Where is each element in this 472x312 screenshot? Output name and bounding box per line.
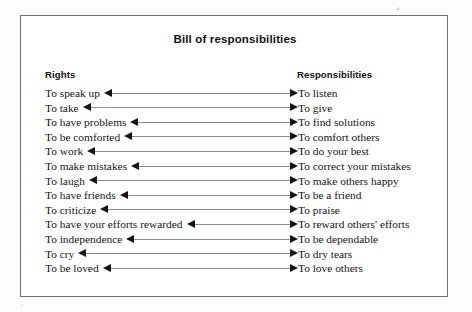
rights-responsibilities-list: To speak upTo listenTo takeTo giveTo hav…	[21, 86, 449, 276]
figure-title: Bill of responsibilities	[21, 33, 449, 45]
arrow-head-left-icon	[83, 103, 91, 111]
arrow-head-right-icon	[290, 162, 298, 170]
responsibility-item-label: To do your best	[298, 144, 369, 159]
connector-line	[128, 195, 290, 196]
responsibility-item-label: To reward others' efforts	[298, 217, 409, 232]
responsibility-item-label: To dry tears	[298, 247, 352, 262]
connector-line	[139, 166, 290, 167]
right-item-label: To be loved	[45, 261, 99, 276]
responsibility-item-label: To correct your mistakes	[298, 159, 411, 174]
arrow-head-right-icon	[290, 220, 298, 228]
responsibility-item-label: To be dependable	[298, 232, 378, 247]
arrow-head-right-icon	[290, 118, 298, 126]
arrow-head-right-icon	[290, 235, 298, 243]
responsibility-item-label: To comfort others	[298, 130, 379, 145]
arrow-head-right-icon	[290, 132, 298, 140]
connector-line	[97, 180, 290, 181]
arrow-head-right-icon	[290, 103, 298, 111]
table-row: To criticizeTo praise	[21, 203, 449, 218]
arrow-head-left-icon	[103, 264, 111, 272]
figure-root: Bill of responsibilities Rights Responsi…	[0, 0, 472, 312]
arrow-head-right-icon	[290, 205, 298, 213]
connector-line	[134, 239, 290, 240]
table-row: To have problemsTo find solutions	[21, 115, 449, 130]
connector-line	[108, 209, 290, 210]
table-row: To independenceTo be dependable	[21, 232, 449, 247]
table-row: To workTo do your best	[21, 144, 449, 159]
arrow-head-left-icon	[187, 220, 195, 228]
column-header-rights: Rights	[45, 69, 75, 80]
connector-line	[132, 136, 290, 137]
responsibility-item-label: To make others happy	[298, 174, 399, 189]
arrow-head-left-icon	[124, 132, 132, 140]
arrow-head-left-icon	[131, 162, 139, 170]
table-row: To cryTo dry tears	[21, 247, 449, 262]
arrow-head-right-icon	[290, 89, 298, 97]
table-row: To have friendsTo be a friend	[21, 188, 449, 203]
right-item-label: To laugh	[45, 174, 85, 189]
arrow-head-left-icon	[100, 205, 108, 213]
connector-line	[86, 253, 290, 254]
arrow-head-right-icon	[290, 176, 298, 184]
connector-line	[111, 268, 290, 269]
right-item-label: To work	[45, 144, 83, 159]
connector-line	[195, 224, 290, 225]
table-row: To make mistakesTo correct your mistakes	[21, 159, 449, 174]
arrow-head-left-icon	[87, 147, 95, 155]
table-row: To speak upTo listen	[21, 86, 449, 101]
right-item-label: To have your efforts rewarded	[45, 217, 183, 232]
arrow-head-left-icon	[78, 249, 86, 257]
table-row: To have your efforts rewardedTo reward o…	[21, 217, 449, 232]
right-item-label: To be comforted	[45, 130, 120, 145]
responsibility-item-label: To be a friend	[298, 188, 361, 203]
table-row: To be lovedTo love others	[21, 261, 449, 276]
arrow-head-left-icon	[89, 176, 97, 184]
right-item-label: To have friends	[45, 188, 116, 203]
arrow-head-left-icon	[130, 118, 138, 126]
arrow-head-right-icon	[290, 191, 298, 199]
right-item-label: To cry	[45, 247, 74, 262]
connector-line	[138, 122, 290, 123]
right-item-label: To criticize	[45, 203, 96, 218]
responsibility-item-label: To give	[298, 101, 332, 116]
arrow-head-left-icon	[126, 235, 134, 243]
right-item-label: To make mistakes	[45, 159, 127, 174]
table-row: To laughTo make others happy	[21, 174, 449, 189]
right-item-label: To take	[45, 101, 79, 116]
responsibility-item-label: To listen	[298, 86, 337, 101]
arrow-head-right-icon	[290, 147, 298, 155]
responsibility-item-label: To love others	[298, 261, 363, 276]
column-header-responsibilities: Responsibilities	[297, 69, 372, 80]
arrow-head-left-icon	[120, 191, 128, 199]
figure-border-box: Bill of responsibilities Rights Responsi…	[20, 15, 448, 297]
table-row: To takeTo give	[21, 101, 449, 116]
right-item-label: To speak up	[45, 86, 100, 101]
responsibility-item-label: To find solutions	[298, 115, 375, 130]
connector-line	[91, 107, 290, 108]
arrow-head-right-icon	[290, 249, 298, 257]
connector-line	[95, 151, 290, 152]
responsibility-item-label: To praise	[298, 203, 340, 218]
table-row: To be comfortedTo comfort others	[21, 130, 449, 145]
connector-line	[112, 93, 290, 94]
right-item-label: To independence	[45, 232, 122, 247]
arrow-head-left-icon	[104, 89, 112, 97]
arrow-head-right-icon	[290, 264, 298, 272]
right-item-label: To have problems	[45, 115, 126, 130]
